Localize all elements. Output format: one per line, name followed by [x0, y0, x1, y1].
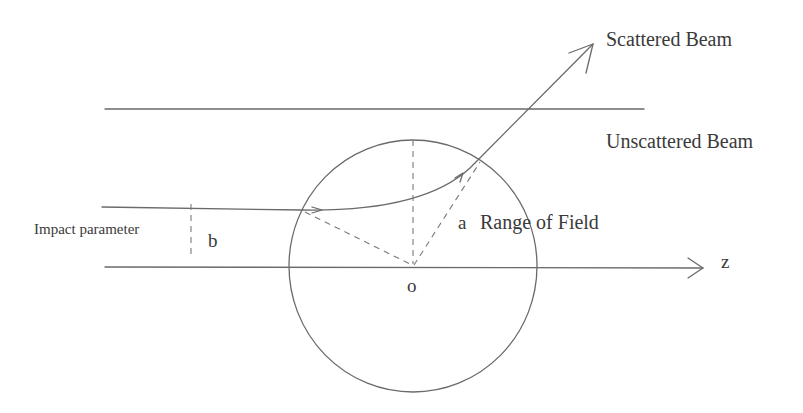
unscattered-beam-label: Unscattered Beam — [606, 131, 753, 151]
range-of-field-label: Range of Field — [480, 212, 599, 232]
b-variable-label: b — [208, 231, 218, 250]
particle-trajectory — [102, 44, 593, 210]
scattered-beam-label: Scattered Beam — [606, 29, 732, 49]
scattering-diagram — [0, 0, 803, 413]
dashed-line-origin-to-exit — [414, 162, 480, 265]
impact-parameter-label: Impact parameter — [34, 222, 139, 237]
origin-label: o — [407, 276, 417, 295]
a-variable-label: a — [458, 213, 466, 232]
z-axis-label: z — [721, 252, 729, 271]
z-axis-line — [105, 267, 703, 268]
dashed-line-origin-to-entry — [305, 212, 412, 265]
